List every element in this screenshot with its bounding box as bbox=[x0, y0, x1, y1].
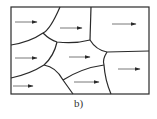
domain-wall bbox=[44, 65, 73, 94]
domain-frame bbox=[11, 7, 149, 94]
domain-wall bbox=[44, 42, 57, 65]
figure-caption: b) bbox=[0, 97, 157, 109]
domain-wall bbox=[90, 40, 149, 52]
domain-wall bbox=[90, 7, 91, 40]
domain-wall bbox=[11, 65, 44, 78]
domain-wall bbox=[103, 52, 111, 94]
domain-wall bbox=[11, 7, 60, 45]
domain-wall bbox=[43, 33, 90, 43]
domain-walls bbox=[11, 7, 149, 94]
magnetization-arrows bbox=[13, 22, 140, 86]
domain-wall bbox=[63, 65, 104, 80]
